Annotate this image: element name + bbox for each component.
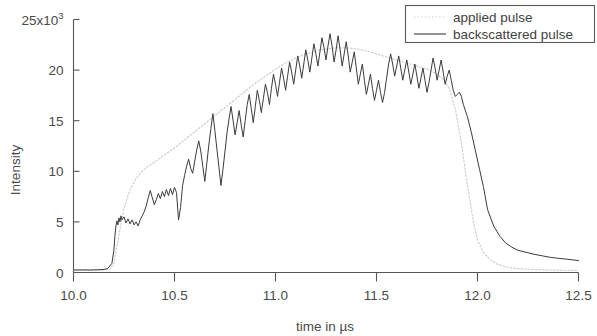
x-tick-label: 11.5 bbox=[364, 288, 389, 303]
x-axis-ticks bbox=[74, 273, 579, 282]
y-tick-label: 25x103 bbox=[21, 10, 63, 28]
x-axis-title: time in µs bbox=[296, 319, 354, 334]
series-applied-pulse bbox=[74, 48, 579, 271]
x-axis-tick-labels: 10.010.511.011.512.012.5 bbox=[60, 288, 591, 303]
x-tick-label: 12.5 bbox=[565, 288, 591, 303]
series-group bbox=[74, 34, 579, 271]
x-tick-label: 12.0 bbox=[464, 288, 490, 303]
y-tick-label: 15 bbox=[48, 114, 63, 129]
x-tick-label: 10.0 bbox=[60, 288, 86, 303]
y-tick-label: 20 bbox=[48, 63, 63, 78]
y-axis-ticks bbox=[74, 20, 80, 273]
y-axis-tick-labels: 0510152025x103 bbox=[21, 10, 63, 281]
y-tick-label: 0 bbox=[56, 266, 64, 281]
legend-label: backscattered pulse bbox=[453, 27, 573, 42]
x-tick-label: 10.5 bbox=[161, 288, 187, 303]
x-tick-label: 11.0 bbox=[263, 288, 288, 303]
chart-figure: 0510152025x103 10.010.511.011.512.012.5 … bbox=[0, 0, 597, 336]
legend-label: applied pulse bbox=[453, 10, 533, 25]
y-axis-title: Intensity bbox=[8, 145, 23, 196]
series-backscattered-pulse bbox=[74, 34, 579, 270]
chart-svg: 0510152025x103 10.010.511.011.512.012.5 … bbox=[0, 0, 597, 336]
y-tick-label: 5 bbox=[56, 215, 64, 230]
y-tick-label: 10 bbox=[48, 164, 63, 179]
chart-legend: applied pulsebackscattered pulse bbox=[406, 6, 595, 43]
